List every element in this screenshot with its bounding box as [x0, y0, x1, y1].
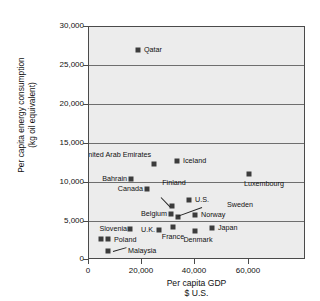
- y-axis-title-line1: Per capita energy consumption: [16, 57, 26, 172]
- point-us[interactable]: [187, 198, 192, 203]
- label-qatar: Qatar: [144, 46, 162, 54]
- y-axis-ticks: 30,000 25,000 20,000 15,000 10,000 5,000…: [44, 0, 84, 301]
- point-malaysia[interactable]: [106, 249, 111, 254]
- gridline-25000: [89, 65, 304, 66]
- y-tick-15000: 15,000: [48, 139, 84, 147]
- point-poland-b[interactable]: [106, 237, 111, 242]
- label-uae: United Arab Emirates: [88, 151, 151, 159]
- label-iceland: Iceland: [183, 157, 206, 165]
- label-denmark: Denmark: [183, 236, 212, 244]
- plot-area: Qatar United Arab Emirates Iceland Luxem…: [88, 26, 305, 259]
- y-tickmark-15000: [83, 143, 88, 144]
- label-slovenia: Slovenia: [99, 225, 127, 233]
- leader-line-malaysia: [113, 247, 127, 252]
- point-iceland[interactable]: [175, 159, 180, 164]
- gridline-5000: [89, 221, 304, 222]
- x-axis-title-line1: Per capita GDP: [167, 278, 227, 288]
- y-tick-25000: 25,000: [48, 61, 84, 69]
- x-tickmark-60000: [248, 259, 249, 264]
- label-us: U.S.: [195, 196, 209, 204]
- y-axis-title: Per capita energy consumption (kg oil eq…: [16, 30, 38, 200]
- y-tick-20000: 20,000: [48, 100, 84, 108]
- point-norway[interactable]: [193, 213, 198, 218]
- y-tick-10000: 10,000: [48, 178, 84, 186]
- x-axis-title-line2: $ U.S.: [185, 288, 209, 298]
- point-canada[interactable]: [145, 187, 150, 192]
- y-tickmark-10000: [83, 182, 88, 183]
- x-axis-title: Per capita GDP $ U.S.: [88, 278, 305, 298]
- y-tick-5000: 5,000: [48, 217, 84, 225]
- label-malaysia: Malaysia: [128, 247, 156, 255]
- point-bahrain[interactable]: [129, 177, 134, 182]
- point-uk[interactable]: [157, 228, 162, 233]
- point-denmark[interactable]: [193, 229, 198, 234]
- x-tick-0: 0: [86, 266, 90, 275]
- x-tickmark-20000: [141, 259, 142, 264]
- x-tick-40000: 40,000: [182, 266, 206, 275]
- label-japan: Japan: [218, 224, 238, 232]
- point-japan[interactable]: [210, 226, 215, 231]
- label-bahrain: Bahrain: [102, 175, 127, 183]
- x-tick-20000: 20,000: [129, 266, 153, 275]
- y-tick-0: 0: [48, 255, 84, 263]
- label-finland: Finland: [162, 179, 186, 187]
- gridline-15000: [89, 143, 304, 144]
- gridline-20000: [89, 104, 304, 105]
- leader-line-finland: [161, 197, 171, 207]
- point-belgium[interactable]: [169, 212, 174, 217]
- y-tickmark-5000: [83, 221, 88, 222]
- scatter-chart: Qatar United Arab Emirates Iceland Luxem…: [0, 0, 320, 301]
- label-norway: Norway: [201, 211, 225, 219]
- point-uae[interactable]: [152, 162, 157, 167]
- label-belgium: Belgium: [141, 210, 167, 218]
- point-qatar[interactable]: [136, 48, 141, 53]
- label-france: France: [162, 233, 184, 241]
- label-sweden: Sweden: [227, 201, 253, 209]
- point-slovenia[interactable]: [128, 227, 133, 232]
- y-tick-30000: 30,000: [48, 22, 84, 30]
- point-france[interactable]: [171, 225, 176, 230]
- label-uk: U.K.: [141, 226, 155, 234]
- x-tickmark-40000: [194, 259, 195, 264]
- y-tickmark-20000: [83, 104, 88, 105]
- label-canada: Canada: [118, 185, 143, 193]
- y-axis-title-line2: (kg oil equivalent): [27, 82, 37, 148]
- label-poland: Poland: [114, 236, 136, 244]
- point-poland-a[interactable]: [99, 237, 104, 242]
- point-luxembourg[interactable]: [247, 172, 252, 177]
- y-tickmark-25000: [83, 65, 88, 66]
- y-tickmark-30000: [83, 26, 88, 27]
- x-tickmark-0: [88, 259, 89, 264]
- leader-line-sweden: [177, 207, 202, 217]
- label-luxembourg: Luxembourg: [244, 180, 284, 188]
- x-tick-60000: 60,000: [236, 266, 260, 275]
